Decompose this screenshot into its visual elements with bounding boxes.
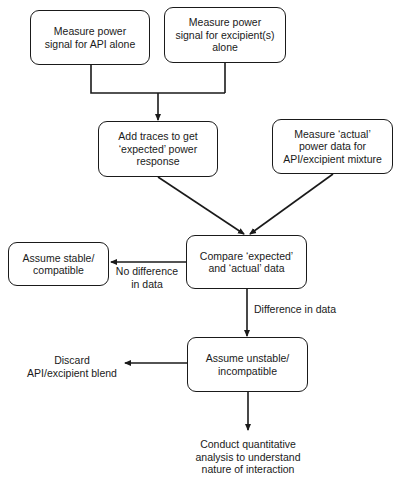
arrow-actual-to-compare (250, 174, 333, 234)
connector-api-merge (91, 65, 225, 93)
arrow-expected-to-compare (158, 177, 244, 234)
edge-label-no-difference: No difference in data (114, 265, 180, 290)
node-measure-excipient-text: Measure power signal for excipient(s) al… (175, 16, 274, 54)
edge-label-difference: Difference in data (254, 303, 354, 316)
node-measure-api: Measure power signal for API alone (30, 10, 150, 65)
node-add-traces: Add traces to get ‘expected’ power respo… (98, 121, 218, 177)
node-measure-actual: Measure ‘actual’ power data for API/exci… (272, 119, 393, 174)
node-assume-stable: Assume stable/ compatible (8, 242, 109, 286)
node-measure-actual-text: Measure ‘actual’ power data for API/exci… (283, 128, 382, 166)
terminal-discard: Discard API/excipient blend (22, 354, 122, 379)
node-add-traces-text: Add traces to get ‘expected’ power respo… (118, 130, 197, 168)
node-compare: Compare ‘expected’ and ‘actual’ data (186, 235, 307, 289)
node-measure-excipient: Measure power signal for excipient(s) al… (164, 7, 286, 63)
node-assume-unstable: Assume unstable/ incompatible (187, 337, 308, 392)
node-compare-text: Compare ‘expected’ and ‘actual’ data (200, 250, 293, 275)
node-assume-stable-text: Assume stable/ compatible (23, 252, 95, 277)
node-assume-unstable-text: Assume unstable/ incompatible (206, 352, 289, 377)
terminal-conduct: Conduct quantitative analysis to underst… (188, 438, 308, 476)
node-measure-api-text: Measure power signal for API alone (45, 25, 135, 50)
